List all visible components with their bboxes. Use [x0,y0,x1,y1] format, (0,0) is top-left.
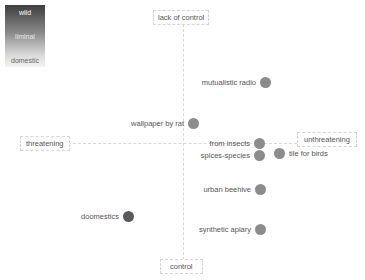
point-label: wallpaper by rat [131,119,184,128]
point-dot-icon [254,150,265,161]
point-tile-for-birds[interactable]: tile for birds [274,147,328,159]
axis-label-unthreatening: unthreatening [297,132,357,147]
axis-label-lack-of-control: lack of control [153,10,209,25]
point-dot-icon [188,118,199,129]
point-dot-icon [255,184,266,195]
point-label: urban beehive [203,185,251,194]
point-from-insects[interactable]: from insects [210,137,265,149]
point-urban-beehive[interactable]: urban beehive [203,183,266,195]
point-spices-species[interactable]: spices-species [201,149,265,161]
point-label: tile for birds [289,149,328,158]
point-label: doomestics [81,212,119,221]
point-mutualistic-radio[interactable]: mutualistic radio [202,76,271,88]
wild-domestic-legend: wild liminal domestic [5,5,45,67]
point-label: spices-species [201,151,250,160]
point-dot-icon [123,211,134,222]
point-label: synthetic apiary [199,225,251,234]
point-synthetic-apiary[interactable]: synthetic apiary [199,223,266,235]
point-doomestics[interactable]: doomestics [81,210,134,222]
point-label: mutualistic radio [202,78,256,87]
vertical-axis [183,24,184,260]
point-dot-icon [260,77,271,88]
axis-label-control: control [160,259,203,274]
legend-label-domestic: domestic [5,57,45,64]
point-dot-icon [274,148,285,159]
legend-label-liminal: liminal [5,33,45,40]
point-label: from insects [210,139,250,148]
point-dot-icon [255,224,266,235]
point-wallpaper-by-rat[interactable]: wallpaper by rat [131,117,199,129]
legend-label-wild: wild [5,9,45,16]
axis-label-threatening: threatening [20,136,70,151]
point-dot-icon [254,138,265,149]
